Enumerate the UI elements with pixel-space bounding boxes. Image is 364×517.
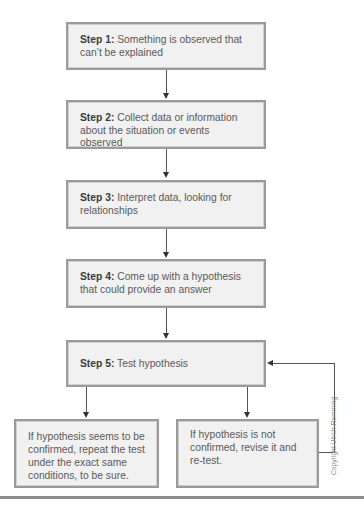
step-3-label: Step 3:: [80, 192, 114, 203]
arrow-down-icon: [163, 93, 169, 99]
step-4-label: Step 4:: [80, 271, 114, 282]
step-5-label: Step 5:: [80, 358, 114, 369]
arrow-down-icon: [244, 412, 250, 418]
outcome-not-confirmed-box: If hypothesis is not confirmed, revise i…: [176, 419, 319, 488]
arrow-down-icon: [163, 252, 169, 258]
connector-5-not-confirmed: [247, 387, 248, 413]
connector-1-2: [166, 70, 167, 94]
step-5-text: Test hypothesis: [114, 358, 188, 369]
bottom-rule: [0, 496, 364, 499]
copyright-text: Copyright Ulrich Remming: [330, 397, 337, 475]
step-4-box: Step 4: Come up with a hypothesis that c…: [66, 259, 266, 308]
step-1-box: Step 1: Something is observed that can’t…: [66, 22, 266, 70]
step-1-label: Step 1:: [80, 34, 114, 45]
step-2-label: Step 2:: [80, 112, 114, 123]
connector-5-confirmed: [86, 387, 87, 413]
step-2-box: Step 2: Collect data or information abou…: [66, 100, 266, 149]
arrow-down-icon: [163, 172, 169, 178]
arrow-down-icon: [83, 412, 89, 418]
feedback-line-top: [272, 363, 334, 364]
step-3-box: Step 3: Interpret data, looking for rela…: [66, 180, 266, 229]
connector-2-3: [166, 149, 167, 173]
arrow-left-icon: [267, 360, 273, 366]
outcome-confirmed-text: If hypothesis seems to be confirmed, rep…: [28, 431, 145, 481]
arrow-down-icon: [163, 333, 169, 339]
step-5-box: Step 5: Test hypothesis: [66, 340, 266, 387]
connector-3-4: [166, 229, 167, 253]
outcome-not-confirmed-text: If hypothesis is not confirmed, revise i…: [190, 429, 296, 466]
outcome-confirmed-box: If hypothesis seems to be confirmed, rep…: [14, 419, 159, 488]
connector-4-5: [166, 308, 167, 334]
